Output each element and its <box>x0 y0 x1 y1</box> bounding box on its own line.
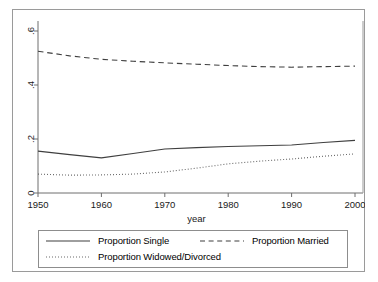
legend-item-proportion-widowed-divorced: Proportion Widowed/Divorced <box>45 249 199 265</box>
series-line-proportion-single <box>38 140 355 158</box>
legend-key-dotted-icon <box>45 252 91 262</box>
series-line-proportion-married <box>38 51 355 67</box>
legend-label-proportion-single: Proportion Single <box>98 236 169 246</box>
y-tick-label: .2 <box>25 135 36 143</box>
y-tick-label: 0 <box>25 190 36 195</box>
legend-label-proportion-married: Proportion Married <box>252 236 329 246</box>
line-chart-svg: 0.2.4.6195019601970198019902000year <box>12 9 365 224</box>
series-line-proportion-widowed-divorced <box>38 154 355 175</box>
chart-legend: Proportion Single Proportion Married Pro… <box>38 230 348 268</box>
x-tick-label: 1980 <box>218 199 239 210</box>
y-tick-label: .6 <box>25 27 36 35</box>
legend-key-solid-icon <box>45 236 91 246</box>
x-axis-title: year <box>187 213 205 224</box>
legend-label-proportion-widowed-divorced: Proportion Widowed/Divorced <box>98 252 221 262</box>
chart-figure: 0.2.4.6195019601970198019902000year Prop… <box>0 0 378 282</box>
x-tick-label: 1970 <box>154 199 175 210</box>
x-tick-label: 2000 <box>344 199 365 210</box>
legend-item-proportion-married: Proportion Married <box>199 233 341 249</box>
plot-area: 0.2.4.6195019601970198019902000year <box>12 9 365 224</box>
x-tick-label: 1960 <box>91 199 112 210</box>
legend-entries: Proportion Single Proportion Married Pro… <box>39 231 347 267</box>
x-tick-label: 1950 <box>27 199 48 210</box>
legend-item-proportion-single: Proportion Single <box>45 233 199 249</box>
x-tick-label: 1990 <box>281 199 302 210</box>
y-tick-label: .4 <box>25 81 36 89</box>
legend-key-dashed-icon <box>199 236 245 246</box>
